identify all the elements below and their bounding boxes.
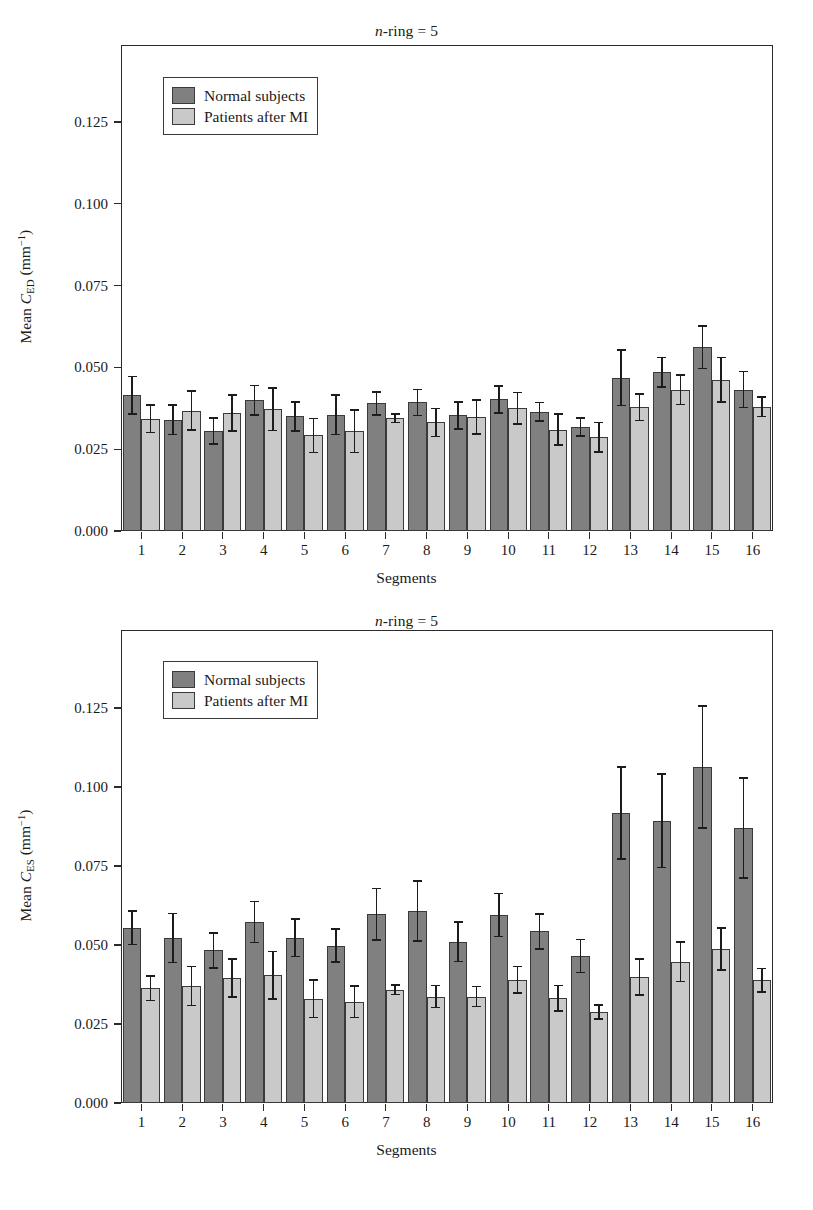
error-bar-line-patient-1: [150, 405, 152, 432]
legend-item-normal: Normal subjects: [172, 85, 308, 106]
chart-title: n-ring = 5: [0, 22, 813, 40]
x-tick-mark: [182, 532, 183, 539]
error-bar-cap-upper-normal-16: [739, 777, 748, 779]
error-bar-cap-upper-patient-3: [228, 958, 237, 960]
x-tick-mark: [426, 532, 427, 539]
error-bar-cap-upper-normal-1: [128, 910, 137, 912]
error-bar-cap-lower-normal-11: [535, 420, 544, 422]
error-bar-cap-lower-patient-15: [717, 401, 726, 403]
error-bar-cap-upper-normal-12: [576, 417, 585, 419]
error-bar-line-normal-13: [620, 350, 622, 406]
error-bar-cap-lower-patient-1: [146, 1000, 155, 1002]
error-bar-cap-lower-normal-6: [331, 961, 340, 963]
bar-patient-segment-16: [753, 980, 772, 1103]
y-tick-label: 0.025: [0, 441, 108, 458]
y-axis-label: Mean CES (mm−1): [16, 715, 35, 1015]
chart-title-symbol: n: [375, 22, 383, 39]
error-bar-cap-lower-normal-13: [617, 858, 626, 860]
y-tick-label: 0.125: [0, 700, 108, 717]
y-tick-mark: [114, 865, 121, 866]
error-bar-line-normal-15: [702, 706, 704, 828]
error-bar-cap-upper-patient-13: [635, 958, 644, 960]
error-bar-cap-upper-normal-2: [168, 404, 177, 406]
error-bar-cap-lower-patient-14: [676, 981, 685, 983]
error-bar-line-patient-12: [598, 1005, 600, 1020]
bar-normal-segment-9: [449, 415, 468, 531]
bar-normal-segment-9: [449, 942, 468, 1103]
error-bar-line-normal-8: [417, 881, 419, 941]
bar-patient-segment-7: [386, 418, 405, 531]
error-bar-cap-upper-normal-11: [535, 402, 544, 404]
y-label-prefix: Mean: [17, 304, 34, 343]
x-tick-label-9: 9: [464, 1114, 472, 1131]
x-tick-mark: [548, 1104, 549, 1111]
x-tick-mark: [711, 532, 712, 539]
error-bar-cap-upper-normal-7: [372, 888, 381, 890]
bar-normal-segment-12: [571, 427, 590, 531]
error-bar-cap-lower-normal-4: [250, 414, 259, 416]
chart-title-text: -ring = 5: [383, 612, 438, 629]
error-bar-line-patient-8: [435, 985, 437, 1007]
error-bar-cap-lower-patient-8: [431, 1007, 440, 1009]
error-bar-cap-lower-patient-9: [472, 1006, 481, 1008]
x-tick-label-6: 6: [341, 542, 349, 559]
error-bar-cap-lower-normal-5: [291, 956, 300, 958]
error-bar-cap-lower-patient-15: [717, 969, 726, 971]
bar-patient-segment-1: [141, 419, 160, 531]
error-bar-cap-upper-patient-6: [350, 409, 359, 411]
error-bar-cap-lower-patient-5: [309, 452, 318, 454]
error-bar-line-normal-11: [539, 402, 541, 420]
x-tick-mark: [263, 1104, 264, 1111]
error-bar-line-patient-5: [313, 418, 315, 452]
error-bar-line-normal-13: [620, 767, 622, 859]
error-bar-cap-upper-normal-9: [454, 401, 463, 403]
figure-mean-ces: n-ring = 50.0000.0250.0500.0750.1000.125…: [0, 595, 813, 1210]
x-tick-mark: [385, 1104, 386, 1111]
error-bar-cap-lower-normal-16: [739, 877, 748, 879]
error-bar-line-patient-11: [557, 985, 559, 1010]
y-tick-mark: [114, 1023, 121, 1024]
error-bar-cap-upper-patient-2: [187, 390, 196, 392]
bar-patient-segment-16: [753, 407, 772, 531]
x-tick-mark: [182, 1104, 183, 1111]
x-tick-mark: [589, 532, 590, 539]
error-bar-cap-lower-normal-10: [494, 936, 503, 938]
x-tick-label-13: 13: [623, 1114, 638, 1131]
error-bar-line-patient-4: [272, 388, 274, 431]
x-tick-label-3: 3: [219, 1114, 227, 1131]
error-bar-cap-upper-normal-16: [739, 371, 748, 373]
error-bar-cap-lower-patient-11: [554, 1010, 563, 1012]
error-bar-cap-lower-normal-6: [331, 434, 340, 436]
error-bar-cap-upper-patient-16: [757, 396, 766, 398]
error-bar-line-patient-16: [761, 397, 763, 417]
x-tick-mark: [752, 532, 753, 539]
bar-patient-segment-10: [508, 408, 527, 531]
y-tick-mark: [114, 530, 121, 531]
bar-patient-segment-14: [671, 962, 690, 1103]
error-bar-cap-lower-patient-2: [187, 1005, 196, 1007]
error-bar-cap-upper-normal-3: [209, 932, 218, 934]
error-bar-cap-lower-patient-1: [146, 432, 155, 434]
x-tick-label-4: 4: [260, 1114, 268, 1131]
x-tick-label-16: 16: [745, 1114, 760, 1131]
error-bar-cap-lower-normal-15: [698, 368, 707, 370]
error-bar-line-patient-5: [313, 980, 315, 1018]
x-tick-label-13: 13: [623, 542, 638, 559]
bar-normal-segment-3: [204, 431, 223, 531]
error-bar-cap-upper-normal-1: [128, 376, 137, 378]
error-bar-line-patient-11: [557, 414, 559, 445]
error-bar-line-patient-2: [191, 966, 193, 1005]
error-bar-cap-lower-patient-3: [228, 996, 237, 998]
error-bar-cap-lower-normal-3: [209, 967, 218, 969]
error-bar-line-normal-16: [743, 778, 745, 878]
legend-item-patient: Patients after MI: [172, 106, 308, 127]
bar-normal-segment-4: [245, 400, 264, 531]
error-bar-cap-lower-normal-1: [128, 944, 137, 946]
error-bar-cap-upper-normal-4: [250, 385, 259, 387]
error-bar-line-normal-3: [213, 418, 215, 444]
bar-normal-segment-6: [327, 946, 346, 1103]
x-tick-mark: [508, 1104, 509, 1111]
bar-patient-segment-7: [386, 990, 405, 1103]
bar-patient-segment-1: [141, 988, 160, 1103]
x-tick-mark: [141, 532, 142, 539]
